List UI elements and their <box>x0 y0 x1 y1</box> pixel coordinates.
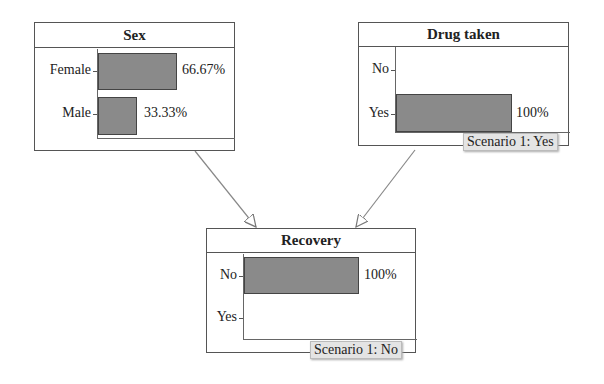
bar-female <box>98 53 177 90</box>
state-label: Yes <box>207 309 237 325</box>
tick <box>93 114 97 115</box>
node-title: Recovery <box>207 229 415 253</box>
tick <box>239 276 243 277</box>
bar-no <box>244 257 359 294</box>
node-drug-taken[interactable]: Drug taken No Yes 100% <box>358 22 569 146</box>
edge-sex-recovery <box>195 151 256 227</box>
scenario-badge: Scenario 1: No <box>310 341 402 359</box>
bar-yes <box>396 94 512 132</box>
node-title: Sex <box>35 23 234 48</box>
bar-male <box>98 97 137 135</box>
state-label: No <box>207 267 237 283</box>
state-label: Male <box>35 105 91 121</box>
node-sex[interactable]: Sex Female 66.67% Male 33.33% <box>34 22 235 151</box>
state-label: No <box>359 61 389 77</box>
tick <box>391 70 395 71</box>
tick <box>239 318 243 319</box>
tick <box>93 71 97 72</box>
node-title: Drug taken <box>359 23 568 47</box>
edge-drug-recovery <box>356 150 415 227</box>
state-label: Female <box>35 62 91 78</box>
state-label: Yes <box>359 105 389 121</box>
state-value: 100% <box>516 105 549 121</box>
state-value: 33.33% <box>144 105 187 121</box>
scenario-badge: Scenario 1: Yes <box>463 133 558 151</box>
state-value: 100% <box>364 267 397 283</box>
state-value: 66.67% <box>182 62 225 78</box>
node-recovery[interactable]: Recovery No 100% Yes <box>206 228 416 353</box>
tick <box>391 114 395 115</box>
